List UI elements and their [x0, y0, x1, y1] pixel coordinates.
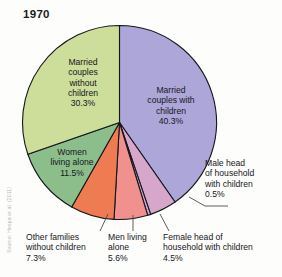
slice-label-female-head-of-household: Female head of household with children 4… [163, 232, 281, 263]
slice-label-men-living-alone: Men living alone 5.6% [108, 232, 166, 263]
slice-label-married-couples-without-children: Married couples without children 30.3% [47, 57, 119, 108]
slice-label-other-families-without-children: Other families without children 7.3% [26, 232, 102, 263]
leader-line-female-head [160, 214, 169, 231]
slice-label-male-head-of-household: Male head of household with children 0.5… [205, 158, 281, 199]
leader-line-male-head-hook [189, 197, 205, 206]
slice-label-women-living-alone: Women living alone 11.5% [36, 147, 108, 178]
pie-chart-figure: 1970 Married couples without children 30… [0, 0, 282, 277]
slice-label-married-couples-with-children: Married couples with children 40.3% [133, 85, 209, 126]
source-credit: Source: Hespa et al. (2011) [6, 163, 12, 253]
